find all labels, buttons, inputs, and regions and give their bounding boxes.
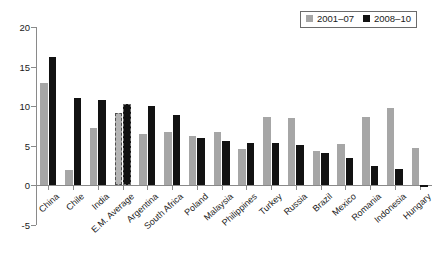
bar-200107-brazil	[313, 151, 320, 185]
legend-swatch-gray	[306, 15, 313, 22]
bar-chart: -505101520 ChinaChileIndiaE.M. AverageAr…	[0, 0, 442, 269]
bar-200107-e-m-average	[115, 113, 122, 186]
bar-200810-romania	[371, 166, 378, 186]
bar-200107-chile	[65, 170, 72, 185]
bar-200107-south-africa	[164, 132, 171, 185]
bar-200107-argentina	[139, 134, 146, 185]
bar-200107-china	[40, 83, 47, 185]
bar-200810-philippines	[247, 143, 254, 186]
y-axis-tick-label: 20	[2, 23, 30, 33]
chart-legend: 2001–072008–10	[300, 11, 417, 28]
bar-200810-russia	[296, 145, 303, 185]
legend-label: 2008–10	[374, 14, 411, 24]
bar-200810-e-m-average	[123, 104, 130, 186]
bar-200107-indonesia	[387, 108, 394, 186]
bar-200810-malaysia	[222, 141, 229, 185]
bar-200810-south-africa	[173, 115, 180, 185]
y-axis-tick-label: 15	[2, 63, 30, 73]
bar-200107-hungary	[412, 148, 419, 185]
bar-200810-hungary	[420, 185, 427, 187]
bar-200107-philippines	[238, 149, 245, 185]
bar-200810-mexico	[346, 158, 353, 185]
legend-entry: 2008–10	[363, 14, 411, 24]
bar-200810-indonesia	[395, 169, 402, 186]
bar-200810-poland	[197, 138, 204, 186]
bar-200107-russia	[288, 118, 295, 185]
y-axis-tick-label: -5	[2, 221, 30, 231]
bar-200107-malaysia	[214, 132, 221, 185]
legend-label: 2001–07	[317, 14, 354, 24]
bar-200810-argentina	[148, 106, 155, 185]
bar-200810-india	[98, 100, 105, 186]
y-axis-tick-label: 10	[2, 102, 30, 112]
y-axis-tick	[31, 225, 36, 226]
bar-200107-romania	[362, 117, 369, 186]
bar-200107-india	[90, 128, 97, 186]
bar-200810-chile	[74, 98, 81, 186]
bar-200810-china	[49, 57, 56, 185]
bar-200107-turkey	[263, 117, 270, 185]
bar-200107-poland	[189, 136, 196, 186]
bar-200810-turkey	[272, 143, 279, 185]
bar-200810-brazil	[321, 153, 328, 185]
legend-swatch-black	[363, 15, 370, 22]
y-axis-tick-label: 5	[2, 142, 30, 152]
y-axis-tick-label: 0	[2, 181, 30, 191]
bar-200107-mexico	[337, 144, 344, 185]
legend-entry: 2001–07	[306, 14, 354, 24]
